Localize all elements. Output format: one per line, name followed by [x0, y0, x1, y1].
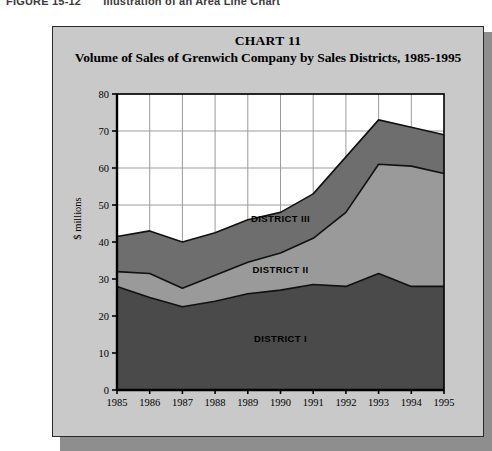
y-tick-label: 0 [104, 385, 109, 396]
x-tick-label: 1988 [205, 397, 226, 408]
y-tick-label: 70 [99, 126, 110, 137]
figure-caption-text: Illustration of an Area Line Chart [103, 0, 280, 7]
x-tick-label: 1985 [107, 397, 128, 408]
x-tick-label: 1989 [237, 397, 258, 408]
y-tick-label: 60 [99, 163, 110, 174]
y-tick-label: 40 [99, 237, 110, 248]
series-label: DISTRICT II [252, 264, 308, 275]
x-tick-label: 1993 [368, 397, 389, 408]
y-tick-label: 20 [99, 311, 110, 322]
y-tick-label: 10 [99, 348, 110, 359]
series-label: DISTRICT III [251, 213, 310, 224]
x-tick-label: 1995 [434, 397, 455, 408]
figure-number: FIGURE 15-12 [6, 0, 81, 7]
figure-caption: FIGURE 15-12Illustration of an Area Line… [6, 0, 280, 7]
y-tick-labels-group: 01020304050607080 [99, 89, 110, 396]
x-tick-label: 1994 [401, 397, 423, 408]
y-tick-label: 30 [99, 274, 110, 285]
x-tick-label: 1987 [172, 397, 193, 408]
y-tick-label: 80 [99, 89, 110, 100]
area-chart-svg: 01020304050607080 1985198619871988198919… [53, 27, 485, 438]
y-tick-label: 50 [99, 200, 110, 211]
x-tick-labels-group: 1985198619871988198919901991199219931994… [107, 397, 455, 408]
x-tick-label: 1992 [335, 397, 356, 408]
x-tick-label: 1990 [270, 397, 291, 408]
series-label: DISTRICT I [254, 333, 307, 344]
x-tick-label: 1991 [303, 397, 324, 408]
plot-area: 01020304050607080 1985198619871988198919… [53, 27, 485, 438]
chart-panel: CHART 11 Volume of Sales of Grenwich Com… [52, 26, 484, 437]
x-tick-label: 1986 [139, 397, 160, 408]
